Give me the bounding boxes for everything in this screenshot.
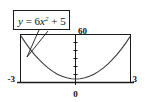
equation-tail: + 5 <box>49 15 67 27</box>
x-origin-label: 0 <box>73 89 78 99</box>
x-max-label: 3 <box>133 74 138 84</box>
x-min-label: -3 <box>8 74 16 84</box>
parabola-graph-figure: 60 -3 3 0 y = 6x2 + 5 <box>0 0 148 102</box>
y-max-label: 60 <box>78 26 88 36</box>
equation-eq: = 6 <box>23 15 41 27</box>
equation-label: y = 6x2 + 5 <box>17 15 66 27</box>
